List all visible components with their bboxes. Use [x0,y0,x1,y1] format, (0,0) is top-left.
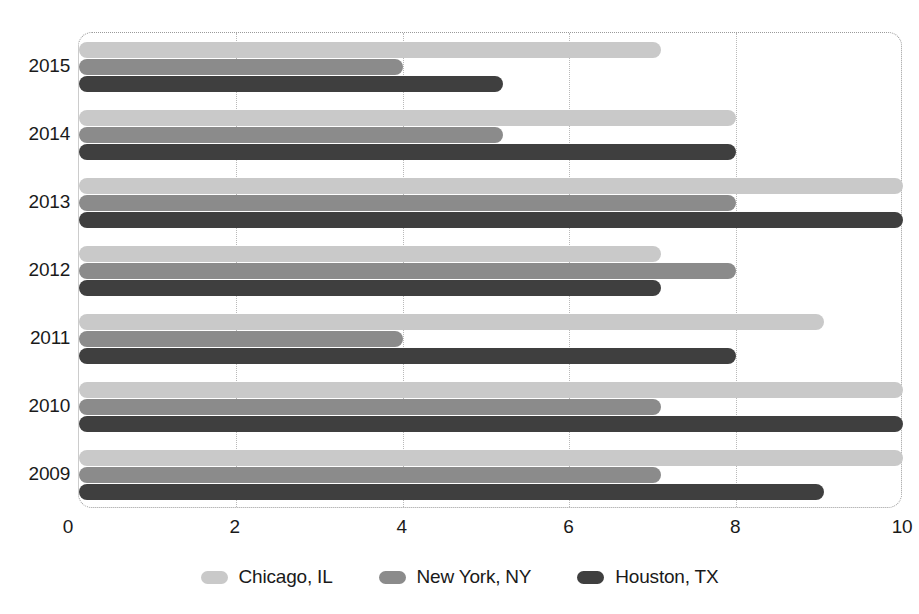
plot-area [78,32,902,508]
y-tick-label-2011: 2011 [0,327,70,349]
legend-label-chicago-il: Chicago, IL [239,566,333,588]
legend-item-new-york-ny[interactable]: New York, NY [379,566,532,588]
x-tick-label-6: 6 [563,516,573,538]
bar-2010-new-york-ny[interactable] [79,399,661,415]
legend-item-chicago-il[interactable]: Chicago, IL [201,566,333,588]
chart-legend: Chicago, ILNew York, NYHouston, TX [0,566,919,588]
bar-group-2010 [79,382,901,432]
bar-2013-new-york-ny[interactable] [79,195,736,211]
bar-2015-new-york-ny[interactable] [79,59,403,75]
y-tick-label-2010: 2010 [0,395,70,417]
legend-label-new-york-ny: New York, NY [417,566,532,588]
legend-label-houston-tx: Houston, TX [615,566,718,588]
legend-item-houston-tx[interactable]: Houston, TX [577,566,718,588]
bar-2015-houston-tx[interactable] [79,76,503,92]
bar-group-2014 [79,110,901,160]
bar-2010-chicago-il[interactable] [79,382,903,398]
bar-group-2012 [79,246,901,296]
x-tick-label-8: 8 [730,516,740,538]
y-tick-label-2013: 2013 [0,191,70,213]
bar-2011-houston-tx[interactable] [79,348,736,364]
bars-layer [79,33,901,507]
y-tick-label-2015: 2015 [0,55,70,77]
x-tick-label-10: 10 [892,516,913,538]
chart-title [0,0,919,3]
bar-2013-houston-tx[interactable] [79,212,903,228]
y-tick-label-2014: 2014 [0,123,70,145]
bar-2011-chicago-il[interactable] [79,314,824,330]
bar-group-2013 [79,178,901,228]
legend-swatch-houston-tx [577,571,604,584]
x-tick-label-0: 0 [63,516,73,538]
bar-2009-houston-tx[interactable] [79,484,824,500]
bar-2012-new-york-ny[interactable] [79,263,736,279]
bar-group-2009 [79,450,901,500]
y-axis: 2015201420132012201120102009 [0,32,70,508]
bar-2009-new-york-ny[interactable] [79,467,661,483]
bar-2012-houston-tx[interactable] [79,280,661,296]
legend-swatch-new-york-ny [379,571,406,584]
x-axis: 0246810 [0,516,919,546]
bar-2015-chicago-il[interactable] [79,42,661,58]
y-tick-label-2009: 2009 [0,463,70,485]
bar-2012-chicago-il[interactable] [79,246,661,262]
bar-2009-chicago-il[interactable] [79,450,903,466]
x-tick-label-4: 4 [396,516,406,538]
bar-2014-new-york-ny[interactable] [79,127,503,143]
y-tick-label-2012: 2012 [0,259,70,281]
bar-2014-chicago-il[interactable] [79,110,736,126]
bar-2013-chicago-il[interactable] [79,178,903,194]
x-tick-label-2: 2 [230,516,240,538]
bar-group-2015 [79,42,901,92]
bar-2010-houston-tx[interactable] [79,416,903,432]
bar-2011-new-york-ny[interactable] [79,331,403,347]
bar-group-2011 [79,314,901,364]
legend-swatch-chicago-il [201,571,228,584]
bar-2014-houston-tx[interactable] [79,144,736,160]
